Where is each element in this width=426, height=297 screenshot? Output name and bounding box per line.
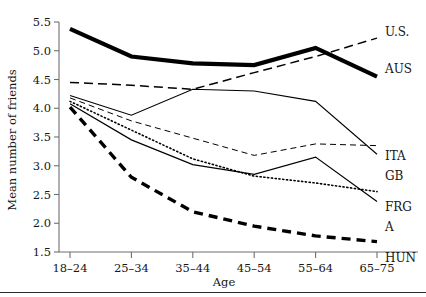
- series-label-hun: HUN: [385, 251, 416, 265]
- line-chart: 1.52.02.53.03.54.04.55.05.5 18–2425–3435…: [0, 0, 426, 297]
- series-label-ita: ITA: [385, 149, 406, 163]
- series-line-aus: [70, 29, 377, 77]
- series-label-aus: AUS: [384, 62, 412, 76]
- x-tick-label: 55–64: [298, 261, 333, 275]
- y-tick-label: 3.5: [33, 130, 51, 144]
- series-line-hun: [70, 107, 377, 242]
- y-tick-label: 2.5: [33, 188, 51, 202]
- y-tick-label: 2.0: [33, 216, 51, 230]
- y-axis-ticks: 1.52.02.53.03.54.04.55.05.5: [33, 15, 59, 259]
- series-labels: AUSU.S.ITAGBFRGAHUN: [384, 25, 416, 265]
- x-axis-ticks: 18–2425–3435–4445–5455–6465–75: [52, 252, 394, 275]
- y-axis-title: Mean number of friends: [5, 69, 19, 210]
- x-tick-label: 35–44: [175, 261, 210, 275]
- x-tick-label: 18–24: [52, 261, 87, 275]
- y-tick-label: 5.5: [33, 15, 51, 29]
- y-tick-label: 1.5: [33, 245, 51, 259]
- series-label-gb: GB: [385, 169, 404, 183]
- series-label-us: U.S.: [385, 25, 409, 39]
- chart-figure: 1.52.02.53.03.54.04.55.05.5 18–2425–3435…: [0, 0, 426, 297]
- series-line-gb: [70, 98, 377, 155]
- axes: [59, 22, 418, 252]
- series-label-frg: FRG: [385, 200, 412, 214]
- series-line-a: [70, 104, 377, 202]
- x-tick-label: 45–54: [237, 261, 272, 275]
- bottom-divider-rule: [0, 292, 426, 293]
- x-axis-title: Age: [212, 275, 236, 289]
- y-tick-label: 3.0: [33, 159, 51, 173]
- y-tick-label: 5.0: [33, 44, 51, 58]
- y-tick-label: 4.0: [33, 101, 51, 115]
- y-tick-label: 4.5: [33, 73, 51, 87]
- series-lines: [70, 29, 377, 242]
- x-tick-label: 25–34: [114, 261, 149, 275]
- series-label-a: A: [384, 220, 394, 234]
